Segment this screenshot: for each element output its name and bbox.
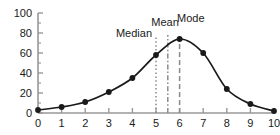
mean-label: Mean <box>151 16 179 28</box>
y-tick-label: 60 <box>20 47 32 59</box>
data-point <box>224 86 230 92</box>
data-point <box>130 75 136 81</box>
y-tick-label: 0 <box>26 107 32 119</box>
data-point-markers <box>35 36 277 114</box>
y-tick-label: 40 <box>20 67 32 79</box>
x-tick-label: 6 <box>177 117 183 129</box>
x-tick-label: 8 <box>224 117 230 129</box>
annotation-lines <box>156 35 180 113</box>
data-point <box>248 101 254 107</box>
x-tick-label: 9 <box>247 117 253 129</box>
data-point <box>153 52 159 58</box>
median-label: Median <box>116 27 152 39</box>
x-tick-label: 7 <box>200 117 206 129</box>
data-point <box>200 50 206 56</box>
data-point <box>106 89 112 95</box>
data-point <box>177 36 183 42</box>
x-tick-label: 10 <box>268 117 280 129</box>
y-tick-label: 80 <box>20 27 32 39</box>
y-axis-tick-labels: 020406080100 <box>14 7 32 119</box>
x-axis-tick-labels: 012345678910 <box>35 117 280 129</box>
y-tick-label: 100 <box>14 7 32 19</box>
data-point <box>82 99 88 105</box>
x-tick-label: 5 <box>153 117 159 129</box>
x-tick-label: 1 <box>59 117 65 129</box>
data-point <box>35 107 41 113</box>
x-tick-label: 2 <box>82 117 88 129</box>
data-point <box>59 104 65 110</box>
mode-label: Mode <box>177 12 205 24</box>
x-tick-label: 0 <box>35 117 41 129</box>
y-tick-label: 20 <box>20 87 32 99</box>
data-point <box>271 108 277 114</box>
x-tick-label: 3 <box>106 117 112 129</box>
distribution-line-chart: 020406080100 012345678910 Median Mean Mo… <box>0 0 280 135</box>
chart-container: 020406080100 012345678910 Median Mean Mo… <box>0 0 280 135</box>
x-tick-label: 4 <box>129 117 135 129</box>
